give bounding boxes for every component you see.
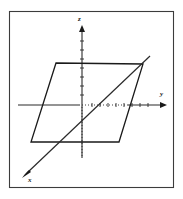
x-axis-line [27, 56, 150, 173]
z-axis-arrowhead [79, 25, 85, 32]
y-axis-arrowhead [160, 102, 167, 108]
y-axis-label: y [160, 91, 163, 98]
figure-border [10, 12, 174, 188]
plane-parallelogram [31, 63, 143, 142]
x-axis-label: x [28, 177, 32, 184]
coordinate-diagram [0, 0, 183, 199]
figure-container: z y x [0, 0, 183, 199]
z-axis-label: z [78, 16, 81, 23]
